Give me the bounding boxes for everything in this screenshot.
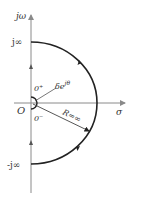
origin-label: O (17, 105, 25, 116)
top-label: j∞ (11, 37, 22, 47)
small-arc-exponent: jθ (63, 79, 71, 87)
axis-up-arrow-lower (29, 140, 33, 145)
zero-plus-label: 0⁺ (34, 84, 43, 93)
y-axis-label: jω (14, 11, 27, 21)
x-axis-label: σ (116, 107, 123, 117)
small-arc-label: δejθ (55, 79, 70, 91)
small-arc-base: δe (55, 82, 65, 91)
bottom-label: -j∞ (7, 160, 20, 170)
axis-up-arrow-upper (29, 64, 33, 69)
zero-minus-label: 0⁻ (34, 114, 43, 123)
nyquist-contour-diagram: jω σ O j∞ -j∞ 0⁺ 0⁻ δejθ R=∞ (0, 0, 142, 203)
radius-label: R=∞ (60, 107, 82, 124)
